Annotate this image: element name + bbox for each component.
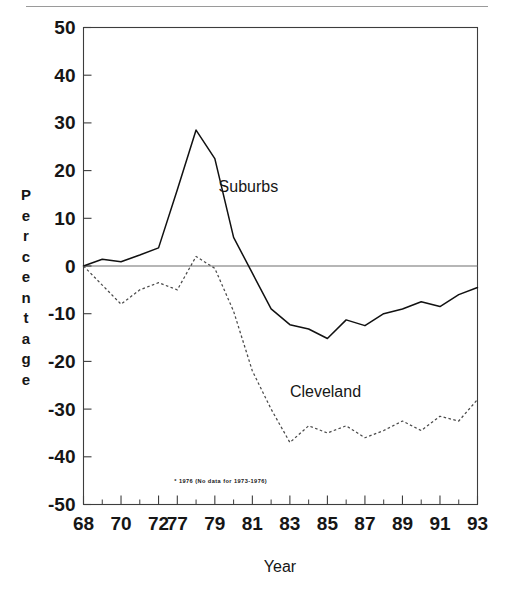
x-axis-ticks (84, 496, 478, 505)
chart-annotations: * 1976 (No data for 1973-1976) (174, 478, 267, 484)
x-tick-label: 70 (110, 513, 131, 534)
y-axis-title-letter: c (22, 248, 30, 265)
y-axis-title-letter: t (24, 309, 29, 326)
data-series-group (84, 130, 478, 442)
x-tick-label: 68 (73, 513, 94, 534)
x-tick-label: 89 (392, 513, 413, 534)
x-tick-label: 79 (204, 513, 225, 534)
x-axis-title: Year (264, 558, 297, 575)
x-tick-label: 83 (279, 513, 300, 534)
y-axis-title: Percentage (21, 186, 31, 388)
y-axis-title-letter: g (21, 350, 30, 367)
y-tick-label: 40 (54, 65, 75, 86)
series-line-cleveland (84, 256, 478, 442)
x-tick-label: 87 (354, 513, 375, 534)
y-axis-title-letter: P (21, 186, 31, 203)
y-axis-title-letter: e (22, 207, 30, 224)
series-line-suburbs (84, 130, 478, 338)
series-label-cleveland: Cleveland (290, 383, 361, 400)
series-label-suburbs: Suburbs (219, 178, 279, 195)
y-tick-label: 0 (65, 256, 76, 277)
y-axis-title-letter: r (23, 227, 29, 244)
y-axis-tick-labels: 50403020100-10-20-30-40-50 (48, 17, 75, 515)
y-tick-label: -50 (48, 494, 75, 515)
y-axis-title-letter: e (22, 268, 30, 285)
y-tick-label: -20 (48, 351, 75, 372)
y-axis-title-letter: a (22, 330, 31, 347)
x-tick-label: 93 (467, 513, 488, 534)
x-axis-tick-labels: 687072777981838587899193 (73, 513, 488, 534)
x-tick-label: 81 (242, 513, 264, 534)
y-tick-label: 30 (54, 112, 75, 133)
series-inline-labels: SuburbsCleveland (219, 178, 361, 400)
y-tick-label: -10 (48, 303, 75, 324)
x-tick-label: 85 (317, 513, 339, 534)
line-chart-svg: 50403020100-10-20-30-40-50 6870727779818… (0, 0, 511, 590)
y-tick-label: 10 (54, 208, 75, 229)
y-tick-label: -40 (48, 446, 75, 467)
y-axis-title-letter: n (21, 289, 30, 306)
x-tick-label: 77 (167, 513, 188, 534)
y-tick-label: -30 (48, 399, 75, 420)
y-tick-label: 20 (54, 160, 75, 181)
missing-data-footnote: * 1976 (No data for 1973-1976) (174, 478, 267, 484)
y-tick-label: 50 (54, 17, 75, 38)
y-axis-title-letter: e (22, 371, 30, 388)
chart-figure: 50403020100-10-20-30-40-50 6870727779818… (0, 0, 511, 590)
x-tick-label: 91 (429, 513, 451, 534)
